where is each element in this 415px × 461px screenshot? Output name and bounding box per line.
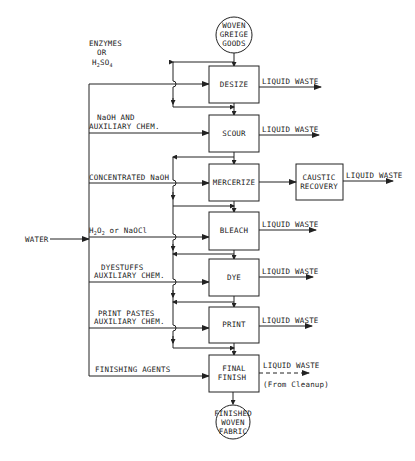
liquid-waste-label: LIQUID WASTE: [262, 77, 319, 86]
input-label-desize-h2so4: H2SO4: [92, 58, 113, 68]
textile-process-flow-diagram: WOVEN GREIGE GOODS WATER ENZY: [0, 0, 415, 461]
waste-output-caustic: LIQUID WASTE: [343, 171, 403, 181]
start-label-line2: GREIGE: [220, 30, 249, 39]
process-label: MERCERIZE: [213, 178, 256, 187]
end-label-line1: FINISHED: [214, 409, 252, 418]
input-label-desize: OR: [97, 48, 107, 57]
process-box-print: PRINT: [209, 307, 259, 343]
process-box-dye: DYE: [209, 259, 259, 296]
water-label: WATER: [25, 235, 49, 244]
process-label: SCOUR: [222, 129, 246, 138]
input-label-scour: AUXILIARY CHEM.: [89, 122, 160, 131]
input-label-print: AUXILIARY CHEM.: [94, 317, 165, 326]
liquid-waste-label: LIQUID WASTE: [262, 267, 319, 276]
start-node-woven-greige-goods: WOVEN GREIGE GOODS: [216, 17, 252, 53]
process-label: DYE: [227, 273, 241, 282]
process-label: FINAL: [222, 364, 246, 373]
process-box-scour: SCOUR: [209, 115, 259, 152]
liquid-waste-label: LIQUID WASTE: [262, 220, 319, 229]
process-box-desize: DESIZE: [209, 66, 259, 103]
end-node-finished-woven-fabric: FINISHED WOVEN FABRIC: [214, 405, 252, 439]
input-label-scour: NaOH AND: [97, 113, 135, 122]
input-label-dye: AUXILIARY CHEM.: [94, 271, 165, 280]
end-label-line3: FABRIC: [219, 427, 247, 436]
liquid-waste-label: LIQUID WASTE: [263, 361, 320, 370]
start-label-line3: GOODS: [222, 39, 246, 48]
waste-output-bleach: LIQUID WASTE: [259, 220, 319, 230]
process-label: DESIZE: [220, 80, 249, 89]
input-label-final-finish: FINISHING AGENTS: [95, 365, 171, 374]
waste-output-print: LIQUID WASTE: [259, 316, 319, 326]
process-box-mercerize: MERCERIZE: [209, 164, 259, 201]
waste-output-scour: LIQUID WASTE: [259, 125, 319, 135]
end-label-line2: WOVEN: [221, 418, 245, 427]
liquid-waste-label: LIQUID WASTE: [262, 316, 319, 325]
start-label-line1: WOVEN: [222, 21, 246, 30]
waste-output-final-finish: LIQUID WASTE (From Cleanup): [259, 361, 329, 389]
process-label: FINISH: [218, 373, 247, 382]
process-label: CAUSTIC: [302, 173, 335, 182]
liquid-waste-label: LIQUID WASTE: [262, 125, 319, 134]
waste-output-desize: LIQUID WASTE: [259, 77, 321, 87]
process-box-final-finish: FINAL FINISH: [209, 355, 259, 392]
waste-output-dye: LIQUID WASTE: [259, 267, 319, 277]
liquid-waste-label: LIQUID WASTE: [346, 171, 403, 180]
from-cleanup-note: (From Cleanup): [263, 380, 329, 389]
input-label-mercerize: CONCENTRATED NaOH: [89, 173, 169, 182]
process-box-caustic-recovery: CAUSTIC RECOVERY: [296, 164, 343, 200]
process-label: RECOVERY: [300, 182, 338, 191]
process-label: BLEACH: [220, 226, 249, 235]
input-label-desize: ENZYMES: [89, 39, 122, 48]
process-box-bleach: BLEACH: [209, 212, 259, 250]
input-label-bleach: H2O2 or NaOCl: [89, 226, 147, 236]
process-label: PRINT: [222, 320, 246, 329]
